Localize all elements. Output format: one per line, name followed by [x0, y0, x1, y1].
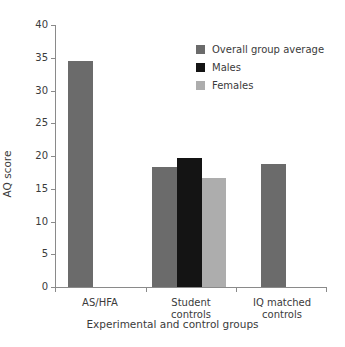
y-tick-label: 5 [42, 249, 48, 259]
y-tick-label: 20 [35, 151, 48, 161]
x-category-label-line: Student [141, 297, 241, 309]
y-tick-label: 15 [35, 184, 48, 194]
x-tick-mark-1 [146, 287, 147, 292]
y-tick-label: 0 [42, 282, 48, 292]
y-tick-mark [51, 222, 55, 223]
y-tick-mark [51, 254, 55, 255]
bar-chart: AQ score 0510152025303540 AS/HFAStudentc… [0, 0, 345, 347]
bar [68, 61, 93, 287]
x-axis-line [55, 287, 327, 288]
y-tick-label: 40 [35, 20, 48, 30]
legend-swatch-icon [196, 63, 205, 72]
y-tick-mark [51, 91, 55, 92]
bar [261, 164, 286, 287]
y-tick-label: 30 [35, 86, 48, 96]
y-tick-mark [51, 58, 55, 59]
bar [202, 178, 226, 287]
y-tick-mark [51, 25, 55, 26]
legend-label: Males [212, 63, 241, 73]
y-tick-mark [51, 123, 55, 124]
legend-swatch-icon [196, 81, 205, 90]
y-tick-mark [51, 189, 55, 190]
x-tick-mark-3 [326, 287, 327, 292]
x-tick-mark-2 [236, 287, 237, 292]
legend-item-1: Males [196, 60, 324, 75]
legend-swatch-icon [196, 45, 205, 54]
x-tick-mark-0 [55, 287, 56, 292]
y-axis-line [55, 25, 56, 287]
y-tick-label: 10 [35, 217, 48, 227]
legend-item-2: Females [196, 78, 324, 93]
x-category-label-line: AS/HFA [50, 297, 150, 309]
x-category-label-0: AS/HFA [50, 297, 150, 309]
legend: Overall group averageMalesFemales [196, 42, 324, 96]
legend-item-0: Overall group average [196, 42, 324, 57]
y-tick-mark [51, 156, 55, 157]
y-axis-title: AQ score [1, 150, 13, 197]
y-tick-label: 35 [35, 53, 48, 63]
x-category-label-line: IQ matched [232, 297, 332, 309]
bar [177, 158, 202, 287]
bar [152, 167, 177, 287]
legend-label: Overall group average [212, 45, 324, 55]
x-axis-title: Experimental and control groups [0, 318, 345, 330]
legend-label: Females [212, 81, 253, 91]
y-tick-label: 25 [35, 118, 48, 128]
